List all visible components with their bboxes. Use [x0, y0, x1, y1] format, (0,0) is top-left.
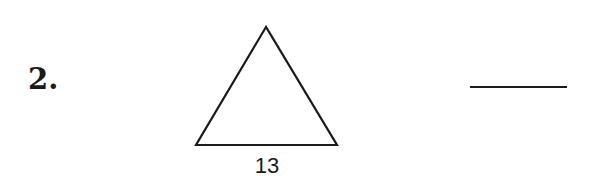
answer-blank[interactable] [470, 86, 567, 88]
triangle-figure [0, 0, 607, 179]
side-length-label: 13 [247, 153, 287, 179]
